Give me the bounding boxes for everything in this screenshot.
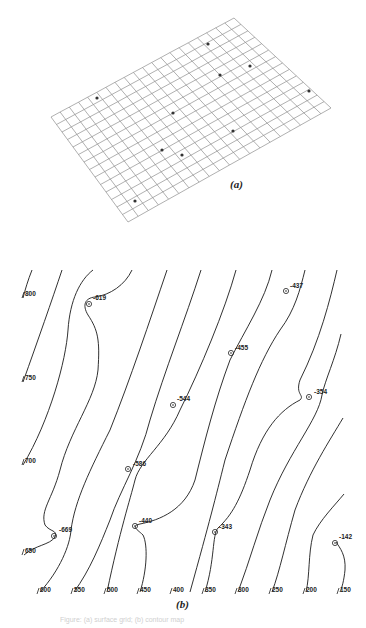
grid-data-points bbox=[95, 42, 310, 202]
panel-a-label: (a) bbox=[230, 178, 243, 190]
contour-300 bbox=[238, 334, 341, 592]
figure-canvas: 800750700650 600550500450400350300250200… bbox=[0, 0, 366, 628]
data-point-value: -669 bbox=[59, 526, 72, 533]
grid-point bbox=[231, 129, 234, 132]
contour-200 bbox=[306, 494, 344, 592]
contour-label: 800 bbox=[25, 290, 36, 297]
contour-500 bbox=[107, 270, 236, 592]
contour-750 bbox=[23, 270, 62, 382]
data-point-value: -354 bbox=[314, 388, 327, 395]
contour-label: 150 bbox=[340, 586, 351, 593]
data-point-value: -437 bbox=[290, 282, 303, 289]
contour-label: 350 bbox=[205, 586, 216, 593]
contour-label: 500 bbox=[107, 586, 118, 593]
data-point-value: -619 bbox=[93, 294, 106, 301]
grid-point bbox=[307, 89, 310, 92]
contour-550 bbox=[74, 270, 201, 592]
contour-350 bbox=[205, 270, 337, 592]
panel-b-label: (b) bbox=[176, 598, 189, 610]
data-point-value: -586 bbox=[133, 460, 146, 467]
data-point-value: -343 bbox=[219, 523, 232, 530]
contour-700 bbox=[23, 270, 93, 465]
contour-label: 550 bbox=[74, 586, 85, 593]
figure-caption: Figure: (a) surface grid; (b) contour ma… bbox=[60, 616, 320, 624]
bottom-contour-labels: 600550500450400350300250200150 bbox=[37, 586, 351, 594]
data-point-value: -440 bbox=[139, 517, 152, 524]
contour-600 bbox=[40, 270, 167, 592]
data-point-value: -544 bbox=[177, 395, 190, 402]
grid-point bbox=[160, 148, 163, 151]
grid-point bbox=[171, 111, 174, 114]
contour-label: 450 bbox=[140, 586, 151, 593]
left-contour-labels: 800750700650 bbox=[22, 290, 36, 555]
data-point-value: -455 bbox=[235, 344, 248, 351]
contour-map bbox=[23, 270, 345, 592]
perspective-grid bbox=[51, 18, 331, 222]
contour-150 bbox=[336, 542, 345, 592]
contour-data-points: -619-437-455-544-354-586-669-440-343-142 bbox=[51, 282, 352, 546]
contour-label: 700 bbox=[25, 457, 36, 464]
contour-250 bbox=[272, 418, 343, 592]
contour-label: 650 bbox=[25, 547, 36, 554]
grid-point bbox=[133, 199, 136, 202]
contour-label: 600 bbox=[40, 586, 51, 593]
contour-650 bbox=[24, 270, 132, 555]
contour-label: 250 bbox=[272, 586, 283, 593]
contour-label: 200 bbox=[306, 586, 317, 593]
grid-point bbox=[248, 64, 251, 67]
grid-point bbox=[218, 73, 221, 76]
data-point-value: -142 bbox=[339, 533, 352, 540]
grid-point bbox=[206, 42, 209, 45]
grid-point bbox=[95, 96, 98, 99]
contour-label: 750 bbox=[25, 374, 36, 381]
contour-label: 400 bbox=[173, 586, 184, 593]
grid-point bbox=[180, 153, 183, 156]
contour-label: 300 bbox=[238, 586, 249, 593]
